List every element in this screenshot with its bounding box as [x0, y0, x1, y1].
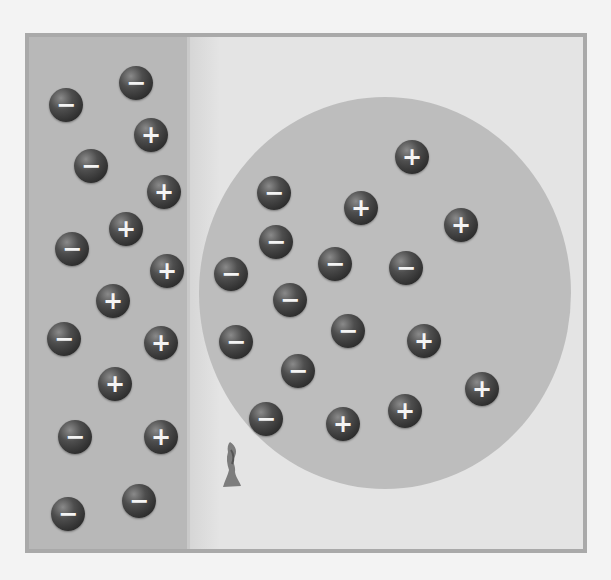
- positive-charge-icon: +: [444, 208, 478, 242]
- negative-charge-icon: −: [318, 247, 352, 281]
- negative-charge-icon: −: [257, 176, 291, 210]
- positive-charge-icon: +: [395, 140, 429, 174]
- negative-charge-icon: −: [389, 251, 423, 285]
- positive-charge-icon: +: [407, 324, 441, 358]
- balloon-charges: +−++−−−−−−−+−+−++: [25, 33, 587, 553]
- negative-charge-icon: −: [331, 314, 365, 348]
- negative-charge-icon: −: [214, 257, 248, 291]
- negative-charge-icon: −: [259, 225, 293, 259]
- positive-charge-icon: +: [344, 191, 378, 225]
- positive-charge-icon: +: [326, 407, 360, 441]
- negative-charge-icon: −: [281, 354, 315, 388]
- negative-charge-icon: −: [249, 402, 283, 436]
- positive-charge-icon: +: [465, 372, 499, 406]
- negative-charge-icon: −: [273, 283, 307, 317]
- diagram-frame: −−+−++−++−++−+−− +−++−−−−−−−+−+−++: [25, 33, 587, 553]
- positive-charge-icon: +: [388, 394, 422, 428]
- negative-charge-icon: −: [219, 325, 253, 359]
